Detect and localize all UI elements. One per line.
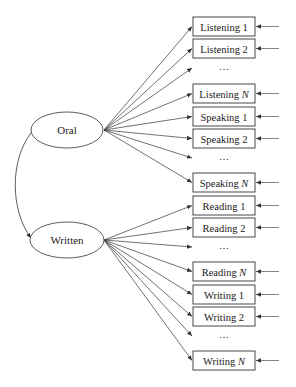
observed-indicators: Listening 1Listening 2…Listening NSpeaki… bbox=[193, 17, 279, 370]
loading-arrow bbox=[104, 240, 192, 247]
loading-arrow bbox=[104, 240, 192, 336]
indicator-label: Speaking N bbox=[200, 178, 250, 189]
indicator-box: Listening 1 bbox=[193, 17, 279, 36]
covariance-curve bbox=[15, 133, 31, 238]
indicator-label: Reading N bbox=[202, 267, 248, 278]
loading-arrow bbox=[104, 228, 192, 241]
loading-arrow bbox=[104, 130, 192, 183]
ellipsis-indicator: … bbox=[219, 61, 229, 72]
indicator-box: Speaking N bbox=[193, 173, 279, 192]
loading-arrow bbox=[104, 240, 192, 361]
indicator-box: Reading 1 bbox=[193, 196, 279, 215]
ellipsis-indicator: … bbox=[219, 151, 229, 162]
indicator-label: Listening N bbox=[199, 89, 249, 100]
loading-arrow bbox=[104, 240, 192, 295]
indicator-box: Reading N bbox=[193, 262, 279, 281]
latent-factors: OralWritten bbox=[30, 112, 104, 258]
indicator-label: Writing N bbox=[203, 356, 246, 367]
covariance-arrow bbox=[15, 133, 31, 238]
indicator-label: Reading 2 bbox=[203, 223, 246, 234]
factor-label: Written bbox=[50, 234, 84, 246]
indicator-box: Listening 2 bbox=[193, 39, 279, 58]
loading-arrow bbox=[104, 240, 192, 272]
factor-label: Oral bbox=[57, 124, 77, 136]
indicator-label: Writing 2 bbox=[204, 312, 244, 323]
indicator-label: Listening 1 bbox=[200, 22, 248, 33]
indicator-label: Speaking 2 bbox=[201, 134, 248, 145]
indicator-label: Reading 1 bbox=[203, 201, 246, 212]
loading-arrow bbox=[104, 49, 192, 131]
indicator-label: Speaking 1 bbox=[201, 112, 248, 123]
factor-written: Written bbox=[30, 222, 104, 258]
indicator-box: Writing 2 bbox=[193, 307, 279, 326]
indicator-box: Speaking 2 bbox=[193, 129, 279, 148]
indicator-label: Listening 2 bbox=[200, 44, 248, 55]
factor-loadings bbox=[104, 27, 192, 361]
indicator-box: Speaking 1 bbox=[193, 107, 279, 126]
indicator-label: Writing 1 bbox=[204, 290, 244, 301]
ellipsis-indicator: … bbox=[219, 240, 229, 251]
loading-arrow bbox=[104, 117, 192, 131]
indicator-box: Reading 2 bbox=[193, 218, 279, 237]
path-diagram: OralWritten Listening 1Listening 2…Liste… bbox=[0, 0, 296, 387]
ellipsis-indicator: … bbox=[219, 329, 229, 340]
loading-arrow bbox=[104, 240, 192, 317]
factor-oral: Oral bbox=[31, 112, 103, 148]
loading-arrow bbox=[104, 206, 192, 241]
loading-arrow bbox=[104, 27, 192, 131]
indicator-box: Writing 1 bbox=[193, 285, 279, 304]
indicator-box: Writing N bbox=[193, 351, 279, 370]
indicator-box: Listening N bbox=[193, 84, 279, 103]
